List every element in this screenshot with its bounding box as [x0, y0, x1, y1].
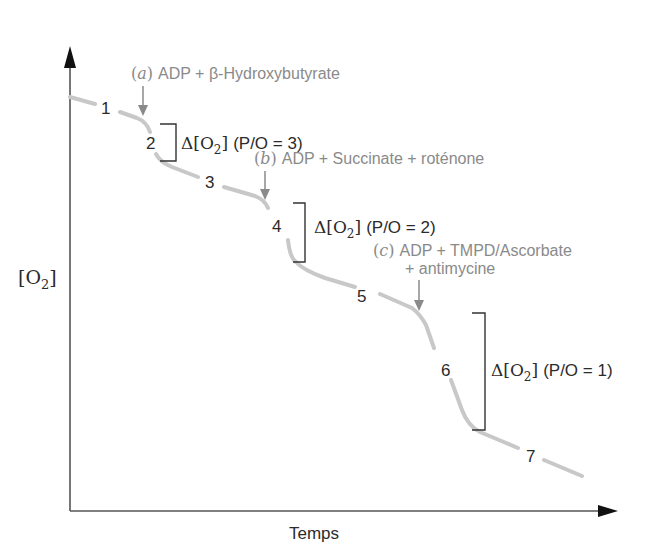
x-axis-label: Temps [289, 524, 339, 543]
segment-label-5: 5 [357, 287, 366, 306]
segment-label-7: 7 [526, 447, 535, 466]
arrow-down-icon [414, 280, 424, 311]
svg-text:Δ[O2](P/O = 1): Δ[O2](P/O = 1) [491, 360, 613, 384]
x-axis-arrowhead-icon [598, 505, 618, 517]
segment-label-3: 3 [205, 173, 214, 192]
svg-text:(a)ADP + β-Hydroxybutyrate: (a)ADP + β-Hydroxybutyrate [131, 64, 340, 83]
segment-label-6: 6 [441, 361, 450, 380]
segment-label-2: 2 [146, 134, 155, 153]
addition-c-annotation: (c)ADP + TMPD/Ascorbate + antimycine [373, 241, 572, 311]
y-axis-label: [O2] [18, 266, 57, 292]
y-axis-arrowhead-icon [64, 46, 76, 68]
oxygen-consumption-diagram: [O2] Temps 1 2 3 4 5 6 7 (a)ADP + β-Hydr… [0, 0, 652, 557]
segment-label-1: 1 [101, 99, 110, 118]
svg-text:(c)ADP + TMPD/Ascorbate: (c)ADP + TMPD/Ascorbate [373, 241, 572, 260]
addition-a-annotation: (a)ADP + β-Hydroxybutyrate [131, 64, 340, 116]
segment-label-4: 4 [272, 217, 281, 236]
svg-text:+ antimycine: + antimycine [405, 260, 495, 277]
addition-b-annotation: (b)ADP + Succinate + roténone [254, 149, 484, 200]
diagram-canvas: [O2] Temps 1 2 3 4 5 6 7 (a)ADP + β-Hydr… [0, 0, 652, 557]
y-axis [64, 46, 76, 511]
arrow-down-icon [138, 86, 148, 116]
arrow-down-icon [260, 171, 270, 200]
x-axis [70, 505, 618, 517]
delta-o2-bracket-3: Δ[O2](P/O = 1) [472, 313, 613, 430]
svg-text:Δ[O2](P/O = 2): Δ[O2](P/O = 2) [314, 217, 436, 241]
